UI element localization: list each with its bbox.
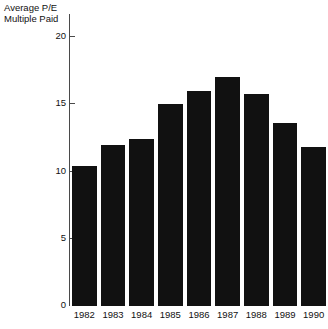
bar-fill: [72, 166, 96, 306]
bar-fill: [158, 104, 182, 306]
chart-title: Average P/E Multiple Paid: [4, 2, 70, 24]
x-axis-labels: 198219831984198519861987198819891990: [70, 307, 328, 325]
x-axis-tick-label: 1982: [70, 309, 99, 321]
y-axis-tick-label: 15: [55, 97, 66, 108]
chart-title-line-1: Average P/E: [4, 2, 70, 13]
bar: [129, 0, 153, 306]
bar-fill: [273, 123, 297, 306]
x-axis-tick-label: 1987: [213, 309, 242, 321]
bar: [215, 0, 239, 306]
bar: [187, 0, 211, 306]
bar-fill: [244, 94, 268, 307]
bar-chart: Average P/E Multiple Paid 05101520 19821…: [0, 0, 328, 329]
bar-fill: [301, 147, 325, 306]
bar: [273, 0, 297, 306]
y-axis-tick-label: 10: [55, 165, 66, 176]
bar: [244, 0, 268, 306]
bar: [158, 0, 182, 306]
y-axis-tick-label: 20: [55, 30, 66, 41]
bar-fill: [101, 145, 125, 306]
bar-fill: [129, 139, 153, 306]
chart-title-line-2: Multiple Paid: [4, 13, 70, 24]
y-axis-tick-label: 0: [61, 299, 66, 310]
bar-fill: [187, 91, 211, 306]
bar: [301, 0, 325, 306]
x-axis-tick-label: 1984: [127, 309, 156, 321]
bar-series: [70, 0, 328, 306]
x-axis-tick-label: 1988: [242, 309, 271, 321]
x-axis-tick-label: 1990: [299, 309, 328, 321]
y-axis-tick-label: 5: [61, 232, 66, 243]
x-axis-tick-label: 1986: [185, 309, 214, 321]
bar: [72, 0, 96, 306]
x-axis-tick-label: 1983: [99, 309, 128, 321]
bar: [101, 0, 125, 306]
x-axis-tick-label: 1989: [271, 309, 300, 321]
bar-fill: [215, 77, 239, 306]
x-axis-tick-label: 1985: [156, 309, 185, 321]
